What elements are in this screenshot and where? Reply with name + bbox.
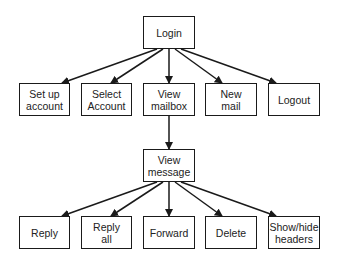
arrow-message-to-replyall — [111, 182, 163, 216]
arrow-message-to-reply — [62, 182, 157, 216]
node-showhide: Show/hide headers — [268, 216, 320, 249]
node-newmail: New mail — [205, 83, 257, 116]
node-login: Login — [143, 16, 195, 49]
mail-navigation-diagram: LoginSet up accountSelect AccountView ma… — [0, 0, 338, 264]
node-setup: Set up account — [19, 83, 70, 116]
node-message: View message — [143, 149, 195, 182]
node-reply: Reply — [19, 216, 70, 249]
node-mailbox: View mailbox — [143, 83, 195, 116]
arrow-login-to-logout — [181, 49, 276, 83]
arrow-message-to-delete — [175, 182, 222, 216]
arrow-login-to-select — [111, 49, 163, 83]
arrow-message-to-showhide — [181, 182, 276, 216]
node-replyall: Reply all — [81, 216, 132, 249]
arrow-login-to-setup — [62, 49, 157, 83]
node-forward: Forward — [143, 216, 195, 249]
node-select: Select Account — [81, 83, 132, 116]
arrow-login-to-newmail — [175, 49, 222, 83]
node-delete: Delete — [205, 216, 257, 249]
node-logout: Logout — [268, 83, 320, 116]
